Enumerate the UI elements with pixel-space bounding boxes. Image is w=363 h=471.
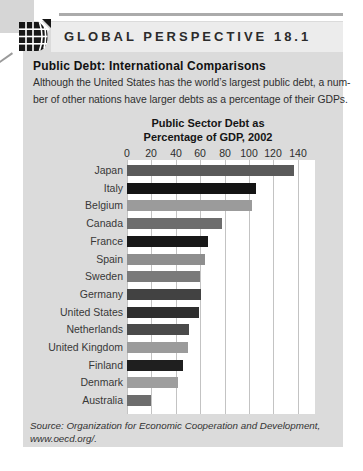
chart-title-line-2: Percentage of GDP, 2002 [108,131,308,145]
plot-area [127,160,315,414]
gridline-60 [200,160,201,414]
bar-label-japan: Japan [23,163,123,178]
bar-australia [127,395,151,406]
kicker-band: GLOBAL PERSPECTIVE 18.1 [51,22,343,52]
bar-denmark [127,377,178,388]
bar-united-kingdom [127,342,188,353]
bar-label-spain: Spain [23,252,123,267]
source-text-line-1: Source: Organization for Economic Cooper… [30,420,320,431]
gridline-40 [176,160,177,414]
bar-label-france: France [23,234,123,249]
bar-sweden [127,271,200,282]
gridline-0 [127,160,128,414]
bar-label-sweden: Sweden [23,269,123,284]
chart-title: Public Sector Debt as Percentage of GDP,… [108,117,308,144]
gridline-20 [151,160,152,414]
scan-line-artifact [0,52,13,63]
bar-finland [127,360,183,371]
book-page: GLOBAL PERSPECTIVE 18.1 Public Debt: Int… [0,0,363,471]
axis-tick-label-140: 140 [283,147,313,159]
gridline-80 [225,160,226,414]
figure-top-rule [59,13,343,16]
gridline-140 [298,160,299,414]
figure-heading: Public Debt: International Comparisons [33,59,266,73]
chart-title-line-1: Public Sector Debt as [108,117,308,131]
bar-united-states [127,307,199,318]
bar-label-germany: Germany [23,287,123,302]
gridline-120 [273,160,274,414]
bar-japan [127,165,294,176]
figure-kicker: GLOBAL PERSPECTIVE 18.1 [51,22,343,52]
bar-netherlands [127,324,189,335]
bar-italy [127,183,256,194]
figure-panel: GLOBAL PERSPECTIVE 18.1 Public Debt: Int… [23,21,343,447]
bar-spain [127,254,205,265]
bar-label-italy: Italy [23,181,123,196]
bar-label-united-kingdom: United Kingdom [23,340,123,355]
gridline-100 [249,160,250,414]
bar-label-finland: Finland [23,358,123,373]
intro-text-line-1: Although the United States has the world… [33,77,350,88]
bar-belgium [127,200,252,211]
bar-label-australia: Australia [23,393,123,408]
bar-label-belgium: Belgium [23,198,123,213]
bar-label-united-states: United States [23,305,123,320]
intro-text-line-2: ber of other nations have larger debts a… [33,94,348,105]
bar-canada [127,218,222,229]
bar-label-netherlands: Netherlands [23,322,123,337]
bar-france [127,236,208,247]
bar-germany [127,289,201,300]
bar-label-denmark: Denmark [23,375,123,390]
globe-icon [18,19,51,54]
bar-label-canada: Canada [23,216,123,231]
source-text-line-2: www.oecd.org/. [30,433,97,444]
